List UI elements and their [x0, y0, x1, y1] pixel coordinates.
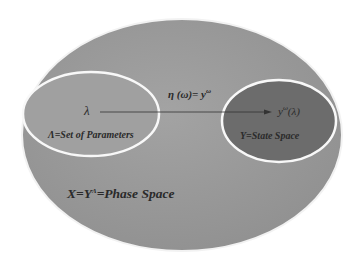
state-value-label: yω(λ): [278, 104, 300, 117]
phase-space-label-rest: =Phase Space: [97, 186, 175, 201]
state-space-ellipse: [222, 80, 336, 162]
state-value-arg: (λ): [288, 105, 300, 117]
phase-space-label: X=YΛ=Phase Space: [67, 186, 174, 202]
mapping-label: η (ω)= yω: [168, 87, 211, 100]
phase-space-label-x: X=Y: [67, 186, 92, 201]
parameter-set-label: Λ=Set of Parameters: [48, 129, 134, 140]
mapping-label-text: η (ω)= y: [168, 88, 206, 100]
mapping-label-sup: ω: [206, 87, 211, 95]
parameter-set-ellipse: [23, 72, 159, 156]
state-space-label: Y=State Space: [240, 130, 299, 141]
lambda-symbol: λ: [84, 103, 90, 119]
